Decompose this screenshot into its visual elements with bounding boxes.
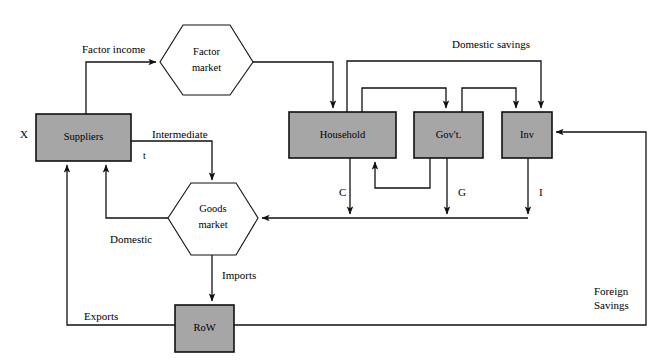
- flow-diagram: Factor market Goods market Suppliers Hou…: [0, 0, 663, 360]
- investment-label: Inv: [520, 129, 535, 140]
- label-foreign-savings-line2: Savings: [594, 299, 629, 311]
- label-foreign-savings-line1: Foreign: [594, 285, 629, 297]
- edge-government-transfers: [375, 158, 430, 188]
- edge-government-savings: [462, 88, 516, 112]
- suppliers-label: Suppliers: [64, 131, 104, 142]
- label-government-spending: G: [458, 186, 466, 198]
- label-imports: Imports: [222, 269, 256, 281]
- label-investment-demand: I: [539, 186, 543, 198]
- label-domestic: Domestic: [110, 233, 152, 245]
- edge-factor-payments-to-household: [253, 62, 333, 108]
- label-factor-income: Factor income: [82, 43, 145, 55]
- row-label: RoW: [193, 322, 215, 333]
- government-label: Gov't.: [436, 129, 462, 140]
- goods-market-label-line1: Goods: [199, 203, 226, 214]
- node-suppliers[interactable]: Suppliers: [36, 114, 131, 161]
- edge-exports: [67, 165, 175, 325]
- edge-household-taxes: [362, 88, 446, 112]
- node-row[interactable]: RoW: [175, 305, 234, 352]
- label-exports: Exports: [84, 310, 118, 322]
- node-investment[interactable]: Inv: [502, 112, 552, 158]
- label-consumption: C: [339, 186, 346, 198]
- edge-factor-income: [86, 62, 156, 114]
- label-x: X: [20, 128, 28, 140]
- edge-foreign-savings: [234, 132, 646, 325]
- node-household[interactable]: Household: [289, 112, 396, 158]
- label-domestic-savings: Domestic savings: [452, 38, 530, 50]
- node-goods-market[interactable]: Goods market: [168, 183, 258, 255]
- node-government[interactable]: Gov't.: [414, 112, 483, 158]
- diagram-canvas: Factor market Goods market Suppliers Hou…: [0, 0, 663, 360]
- household-label: Household: [320, 129, 366, 140]
- label-intermediate: Intermediate: [152, 128, 208, 140]
- label-tax-t: t: [143, 150, 146, 161]
- edge-domestic-supply: [106, 165, 168, 218]
- factor-market-label-line2: market: [192, 62, 221, 73]
- edge-domestic-savings: [347, 61, 541, 112]
- node-factor-market[interactable]: Factor market: [160, 25, 253, 95]
- factor-market-label-line1: Factor: [193, 46, 220, 57]
- goods-market-label-line2: market: [198, 219, 227, 230]
- factor-market-hexagon: [160, 25, 253, 95]
